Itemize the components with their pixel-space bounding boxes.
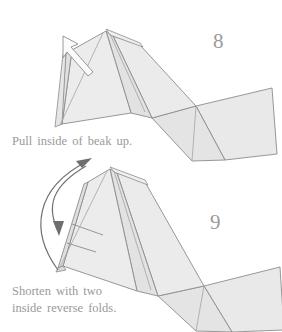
step-caption-9: Shorten with two inside reverse folds. bbox=[12, 283, 116, 317]
step-number-9: 9 bbox=[210, 212, 221, 233]
step-caption-8: Pull inside of beak up. bbox=[12, 133, 132, 150]
step-number-8: 8 bbox=[213, 31, 224, 52]
step9-inner-arrowhead bbox=[53, 221, 64, 236]
origami-instruction-page: 8 9 Pull inside of beak up. Shorten with… bbox=[0, 0, 282, 332]
